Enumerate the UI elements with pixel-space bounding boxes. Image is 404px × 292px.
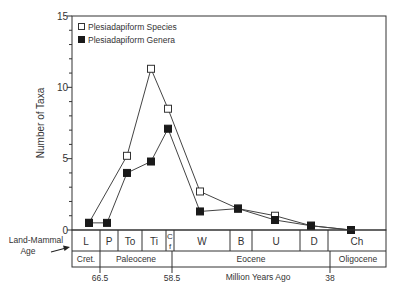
epoch-label: Eocene [237, 254, 266, 264]
time-tick-label: 58.5 [164, 273, 181, 283]
genera-point [235, 205, 242, 212]
species-line [89, 69, 351, 230]
series-layer [86, 65, 355, 233]
lma-cell-label: P [106, 236, 113, 247]
lma-label-line1: Land-Mammal [9, 235, 63, 245]
taxa-chart: 15 10 5 0 Number of Taxa Plesiadapiform … [0, 0, 404, 292]
species-point [197, 188, 204, 195]
time-tick-label: 38 [325, 273, 335, 283]
lma-cell-label: f [169, 242, 172, 251]
genera-point [197, 208, 204, 215]
genera-point [86, 219, 93, 226]
y-tick-0: 0 [62, 225, 68, 236]
genera-point [104, 219, 111, 226]
x-axis-label: Million Years Ago [226, 272, 291, 282]
species-point [165, 105, 172, 112]
legend-filled-square-icon [79, 37, 85, 43]
y-tick-15: 15 [57, 11, 69, 22]
genera-point [308, 222, 315, 229]
species-point [148, 65, 155, 72]
genera-line [89, 129, 351, 230]
genera-point [165, 125, 172, 132]
arrow-icon [51, 246, 70, 253]
y-tick-10: 10 [57, 82, 69, 93]
y-axis-label: Number of Taxa [35, 87, 46, 158]
legend-species: Plesiadapiform Species [88, 22, 177, 32]
epoch-label: Paleocene [116, 254, 156, 264]
lma-cell-label: W [197, 236, 207, 247]
time-tick-label: 66.5 [92, 273, 109, 283]
legend-open-square-icon [79, 24, 85, 30]
genera-point [148, 158, 155, 165]
lma-cell-label: To [125, 236, 136, 247]
epoch-label: Cret. [77, 254, 95, 264]
lma-cell-label: B [238, 236, 245, 247]
genera-point [272, 217, 279, 224]
y-tick-5: 5 [62, 153, 68, 164]
lma-cell-label: L [83, 236, 89, 247]
lma-label-line2: Age [20, 246, 35, 256]
lma-cell-label: C [167, 232, 173, 241]
lma-cell-label: Ti [150, 236, 158, 247]
lma-cell-label: U [272, 236, 279, 247]
lma-cell-label: D [310, 236, 317, 247]
y-axis-ticks [67, 16, 72, 230]
epoch-label: Oligocene [339, 254, 378, 264]
genera-point [124, 169, 131, 176]
plot-frame [72, 16, 386, 230]
lma-cell-label: Ch [351, 236, 364, 247]
species-point [124, 152, 131, 159]
legend-genera: Plesiadapiform Genera [88, 35, 175, 45]
